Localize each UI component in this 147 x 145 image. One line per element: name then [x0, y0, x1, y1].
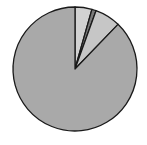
pie-slices: [13, 7, 137, 131]
pie-slice-4: [13, 7, 137, 131]
pie-chart: [0, 0, 147, 145]
